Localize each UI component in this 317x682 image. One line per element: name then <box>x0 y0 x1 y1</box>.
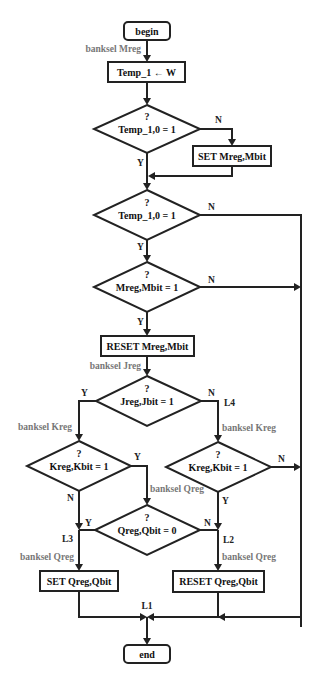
process-reset-mreg: RESET Mreg,Mbit <box>101 336 194 356</box>
begin-terminal: begin <box>124 22 170 40</box>
branch-yes-label: Y <box>137 158 144 168</box>
connector-merge <box>154 166 232 176</box>
decision-temp-bit-2: ? Temp_1,0 = 1 <box>94 190 200 240</box>
decision-condition: Jreg,Jbit = 1 <box>120 396 174 407</box>
decision-question: ? <box>145 269 150 280</box>
branch-no-label: N <box>278 454 285 464</box>
decision-question: ? <box>145 383 150 394</box>
jump-label-l3: L3 <box>62 534 73 544</box>
connector-yes <box>131 466 147 499</box>
branch-no-label: N <box>208 388 215 398</box>
decision-qreg-qbit: ? Qreg,Qbit = 0 <box>95 505 200 555</box>
decision-kreg-kbit-left: ? Kreg,Kbit = 1 <box>27 441 131 491</box>
begin-label: begin <box>135 26 159 37</box>
branch-yes-label: Y <box>134 452 141 462</box>
arrow-down-icon <box>143 329 151 336</box>
decision-condition: Temp_1,0 = 1 <box>118 124 175 135</box>
annotation-banksel-qreg-right: banksel Qreg <box>222 552 276 562</box>
annotation-banksel-kreg-right: banksel Kreg <box>222 423 276 433</box>
process-label: RESET Mreg,Mbit <box>107 341 190 352</box>
branch-no-label: N <box>208 202 215 212</box>
branch-no-label: N <box>67 493 74 503</box>
branch-yes-label: Y <box>137 242 144 252</box>
process-set-qreg: SET Qreg,Qbit <box>40 571 118 591</box>
branch-yes-label: Y <box>81 388 88 398</box>
annotation-banksel-kreg-left: banksel Kreg <box>18 422 72 432</box>
process-label: SET Mreg,Mbit <box>198 151 267 162</box>
arrow-down-icon <box>75 564 83 571</box>
process-reset-qreg: RESET Qreg,Qbit <box>173 571 264 592</box>
branch-no-label: N <box>208 275 215 285</box>
branch-no-label: N <box>215 115 222 125</box>
jump-label-l1: L1 <box>141 601 152 611</box>
decision-jreg-jbit: ? Jreg,Jbit = 1 <box>96 376 201 426</box>
decision-mreg-mbit: ? Mreg,Mbit = 1 <box>94 262 200 312</box>
decision-condition: Kreg,Kbit = 1 <box>188 462 247 473</box>
annotation-banksel-qreg-left: banksel Qreg <box>20 552 74 562</box>
decision-condition: Kreg,Kbit = 1 <box>49 461 108 472</box>
arrow-down-icon <box>75 523 83 530</box>
arrow-left-icon <box>147 613 154 621</box>
branch-yes-label: Y <box>222 496 229 506</box>
jump-label-l2: L2 <box>223 535 234 545</box>
branch-no-label: N <box>204 518 211 528</box>
arrow-down-icon <box>228 139 236 146</box>
arrow-right-icon <box>294 463 301 471</box>
process-temp-assign: Temp_1 ← W <box>108 62 185 82</box>
connector-join-left <box>79 591 141 617</box>
annotation-banksel-jreg: banksel Jreg <box>90 361 142 371</box>
end-terminal: end <box>124 645 170 663</box>
arrow-left-icon <box>218 613 225 621</box>
arrow-down-icon <box>143 55 151 62</box>
annotation-banksel-mreg: banksel Mreg <box>85 44 141 54</box>
decision-question: ? <box>216 449 221 460</box>
decision-question: ? <box>77 448 82 459</box>
connector-yes <box>79 401 96 435</box>
decision-condition: Temp_1,0 = 1 <box>118 210 175 221</box>
arrow-right-icon <box>140 613 147 621</box>
arrow-down-icon <box>214 564 222 571</box>
decision-temp-bit-1: ? Temp_1,0 = 1 <box>94 105 200 153</box>
connector-no <box>201 401 218 436</box>
arrow-right-icon <box>294 283 301 291</box>
decision-question: ? <box>145 111 150 122</box>
flowchart: begin banksel Mreg Temp_1 ← W ? Temp_1,0… <box>0 0 317 682</box>
jump-label-l4: L4 <box>224 398 235 408</box>
decision-condition: Qreg,Qbit = 0 <box>117 525 176 536</box>
decision-question: ? <box>145 197 150 208</box>
process-label: Temp_1 ← W <box>117 67 176 78</box>
process-label: SET Qreg,Qbit <box>47 576 112 587</box>
process-label: RESET Qreg,Qbit <box>179 576 258 587</box>
branch-yes-label: Y <box>137 317 144 327</box>
decision-condition: Mreg,Mbit = 1 <box>116 282 178 293</box>
arrow-down-icon <box>214 523 222 530</box>
process-set-mreg: SET Mreg,Mbit <box>193 146 271 166</box>
branch-yes-label: Y <box>85 518 92 528</box>
annotation-banksel-qreg-mid: banksel Qreg <box>150 484 204 494</box>
arrow-left-icon <box>148 172 155 180</box>
decision-question: ? <box>145 512 150 523</box>
arrow-down-icon <box>143 638 151 645</box>
connector-no <box>200 129 232 140</box>
connector-join-trunk <box>153 617 301 627</box>
end-label: end <box>139 649 155 660</box>
